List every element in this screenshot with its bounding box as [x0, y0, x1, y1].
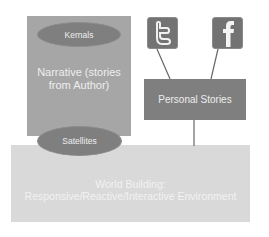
twitter-glyph-icon	[152, 21, 174, 45]
twitter-connector	[157, 49, 170, 79]
facebook-connector	[211, 49, 218, 79]
facebook-glyph-icon	[217, 19, 239, 47]
twitter-icon	[147, 17, 178, 49]
facebook-icon	[212, 17, 243, 49]
personal-stories-box: Personal Stories	[144, 79, 246, 120]
personal-stories-label: Personal Stories	[158, 94, 231, 105]
